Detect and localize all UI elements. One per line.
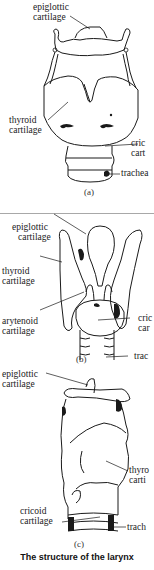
label-epiglottic-cartilage-c: epiglottic cartilage	[2, 369, 38, 389]
label-line-1: cric	[138, 313, 152, 323]
label-line-2: cart	[131, 148, 145, 158]
label-epiglottic-cartilage-b: epiglottic cartilage	[12, 222, 51, 242]
label-line-2: cartilage	[2, 276, 35, 286]
label-line-1: arytenoid	[2, 316, 38, 326]
label-thyroid-cartilage-b: thyroid cartilage	[2, 266, 35, 286]
label-line-1: trac	[134, 351, 148, 361]
label-line-1: thyro	[129, 465, 149, 475]
label-epiglottic-cartilage-a: epiglottic cartilage	[33, 2, 69, 22]
label-line-1: epiglottic	[2, 369, 38, 379]
label-trachea-c: trach	[127, 522, 146, 532]
label-line-2: cartilage	[9, 125, 42, 135]
figure-label-a: (a)	[84, 187, 94, 197]
figure-label-b: (b)	[76, 354, 87, 364]
label-line-1: trachea	[121, 168, 148, 178]
label-trachea-b: trac	[134, 351, 148, 361]
label-cricoid-cartilage-a: cric cart	[131, 138, 145, 158]
label-line-2: carti	[129, 475, 149, 485]
label-trachea-a: trachea	[121, 168, 148, 178]
label-line-1: thyroid	[9, 115, 42, 125]
figure-label-c: (c)	[74, 539, 84, 549]
figure-a: epiglottic cartilage thyroid cartilage c…	[0, 0, 154, 200]
label-line-2: cartilage	[33, 12, 69, 22]
label-line-1: epiglottic	[33, 2, 69, 12]
figure-caption: The structure of the larynx	[0, 552, 154, 562]
label-line-2: cartilage	[12, 232, 51, 242]
label-cricoid-cartilage-c: cricoid cartilage	[20, 506, 53, 526]
label-line-1: cric	[131, 138, 145, 148]
label-thyroid-cartilage-a: thyroid cartilage	[9, 115, 42, 135]
figure-c: epiglottic cartilage thyro carti cricoid…	[0, 365, 154, 550]
label-line-2: cartilage	[2, 379, 38, 389]
label-cricoid-cartilage-b: cric car	[138, 313, 152, 333]
label-line-1: cricoid	[20, 506, 53, 516]
label-line-2: cartilage	[20, 516, 53, 526]
figure-b: epiglottic cartilage thyroid cartilage a…	[0, 200, 154, 365]
label-line-2: car	[138, 323, 152, 333]
label-thyroid-cartilage-c: thyro carti	[129, 465, 149, 485]
label-line-1: thyroid	[2, 266, 35, 276]
label-line-2: cartilage	[2, 326, 38, 336]
label-arytenoid-cartilage-b: arytenoid cartilage	[2, 316, 38, 336]
label-line-1: epiglottic	[12, 222, 51, 232]
label-line-1: trach	[127, 522, 146, 532]
